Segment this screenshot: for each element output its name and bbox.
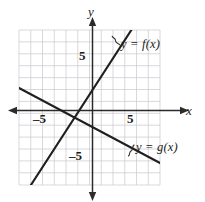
x-axis-label: x xyxy=(186,104,192,117)
tick-label-y-negative-5: –5 xyxy=(69,149,82,162)
graph-figure: x y –5 5 5 –5 y = f(x) y = g(x) xyxy=(0,0,205,202)
f-label-leader-squiggle xyxy=(112,36,120,45)
grid-lines xyxy=(19,30,160,185)
coordinate-plane-svg xyxy=(0,0,205,202)
curve-label-g: y = g(x) xyxy=(136,141,178,154)
y-axis-bottom-arrowhead xyxy=(89,192,96,201)
tick-label-x-negative-5: –5 xyxy=(33,112,46,125)
y-axis-label: y xyxy=(88,5,94,18)
curve-label-f: y = f(x) xyxy=(121,38,160,51)
y-axis xyxy=(89,17,96,201)
tick-label-y-positive-5: 5 xyxy=(79,49,86,62)
tick-label-x-positive-5: 5 xyxy=(127,112,134,125)
x-axis-left-arrowhead xyxy=(8,107,17,114)
